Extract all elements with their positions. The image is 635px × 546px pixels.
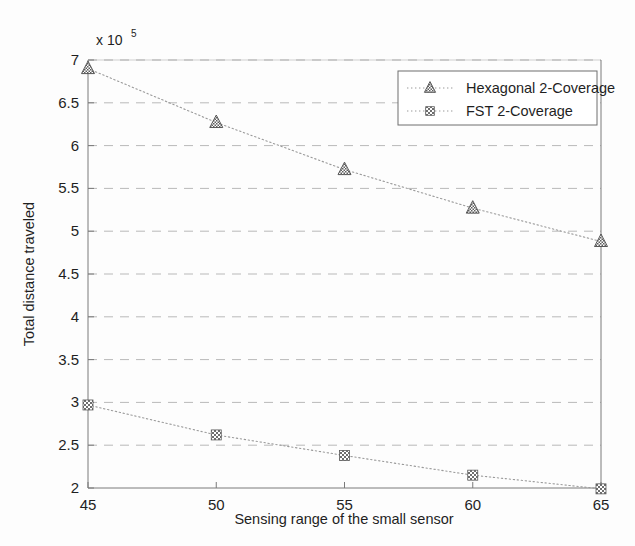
y-axis-exponent: x 10 5 [96,28,137,48]
y-tick-label: 5 [71,222,79,239]
y-tick-label: 6.5 [58,94,79,111]
data-series-group [82,61,608,494]
y-tick-label: 3 [71,393,79,410]
data-point-marker-square [468,470,478,480]
y-tick-label: 7 [71,51,79,68]
x-axis-ticks: 4550556065 [80,482,610,513]
y-axis-ticks: 22.533.544.555.566.57 [58,51,94,496]
data-point-marker-square [426,107,435,116]
y-tick-label: 4.5 [58,265,79,282]
x-tick-label: 65 [593,496,610,513]
data-series [83,400,606,494]
data-point-marker-square [596,484,606,494]
legend[interactable]: Hexagonal 2-CoverageFST 2-Coverage [398,71,615,125]
y-tick-label: 2 [71,479,79,496]
y-tick-label: 6 [71,137,79,154]
data-point-marker-triangle [210,115,223,127]
x-tick-label: 60 [464,496,481,513]
figure-canvas: 22.533.544.555.566.57 4550556065 x 10 5 … [0,0,635,546]
y-axis-exponent-power: 5 [131,28,137,39]
y-axis-title: Total distance traveled [21,202,37,346]
legend-entry-label: FST 2-Coverage [466,103,573,119]
data-point-marker-square [83,400,93,410]
y-axis-exponent-base: x 10 [96,32,123,48]
chart-plot: 22.533.544.555.566.57 4550556065 x 10 5 … [0,0,635,546]
y-tick-label: 4 [71,308,79,325]
x-axis-title: Sensing range of the small sensor [234,511,453,527]
y-tick-label: 5.5 [58,179,79,196]
legend-entry-label: Hexagonal 2-Coverage [466,80,615,96]
x-tick-label: 50 [208,496,225,513]
data-point-marker-triangle [82,61,95,73]
data-point-marker-square [211,430,221,440]
data-point-marker-triangle [338,162,351,174]
x-tick-label: 45 [80,496,97,513]
y-tick-label: 3.5 [58,351,79,368]
series-line [88,405,601,489]
data-point-marker-square [340,450,350,460]
y-tick-label: 2.5 [58,436,79,453]
